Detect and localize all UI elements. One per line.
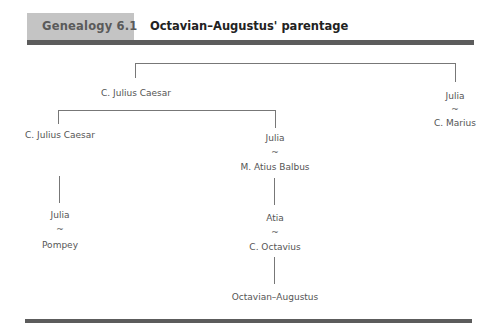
node-octavian: Octavian–Augustus [232, 292, 319, 302]
node-julia-mid: Julia [266, 133, 285, 143]
marriage-symbol: ~ [451, 104, 459, 114]
node-julia-top: Julia [446, 91, 465, 101]
connector-balbus-atia [274, 178, 275, 205]
marriage-symbol: ~ [56, 224, 64, 234]
node-caesar-son: C. Julius Caesar [25, 130, 95, 140]
top-rule [27, 40, 474, 45]
node-marius: C. Marius [434, 118, 476, 128]
connector-top-right [455, 63, 456, 82]
node-pompey: Pompey [42, 240, 78, 250]
marriage-symbol: ~ [271, 147, 279, 157]
node-julia-pompey: Julia [51, 210, 70, 220]
page-title: Octavian–Augustus' parentage [150, 19, 348, 33]
genealogy-label: Genealogy 6.1 [42, 19, 138, 33]
node-root-caesar: C. Julius Caesar [101, 88, 171, 98]
connector-octavius-octavian [274, 257, 275, 284]
node-atia: Atia [266, 213, 284, 223]
connector-caesar-julia [59, 176, 60, 203]
bottom-rule [25, 319, 472, 323]
connector-mid-left [58, 110, 59, 124]
node-octavius: C. Octavius [249, 242, 300, 252]
connector-top-horizontal [135, 63, 456, 64]
marriage-symbol: ~ [271, 227, 279, 237]
connector-mid-horizontal [58, 110, 276, 111]
connector-top-left [135, 63, 136, 78]
node-balbus: M. Atius Balbus [240, 162, 309, 172]
connector-mid-right [275, 110, 276, 128]
